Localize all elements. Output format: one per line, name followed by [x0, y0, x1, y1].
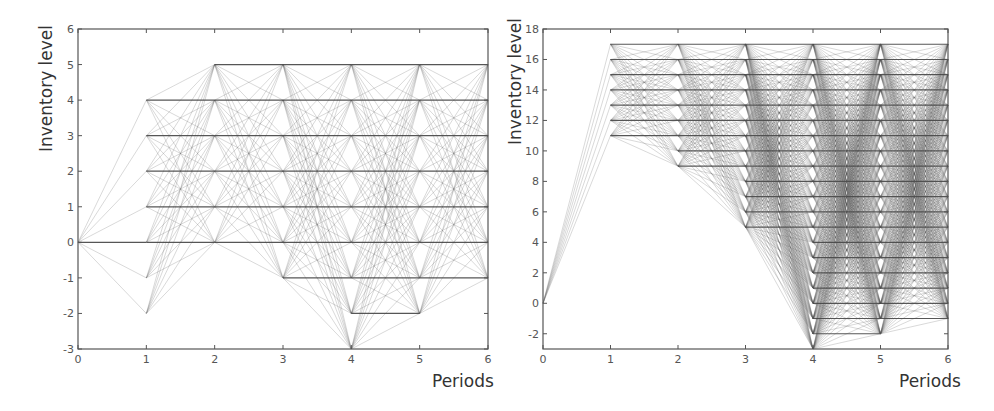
y-tick-label: -2 [528, 328, 539, 341]
y-tick-label: 16 [525, 53, 539, 66]
y-tick-label: -3 [63, 343, 74, 356]
x-tick-label: 1 [607, 353, 614, 366]
y-tick-label: 4 [532, 236, 539, 249]
left-chart-panel: 0123456-3-2-10123456 Inventory level Per… [0, 0, 497, 411]
transition-edges [78, 65, 488, 349]
y-tick-label: 18 [525, 23, 539, 36]
transition-edges [543, 44, 948, 349]
y-tick-label: 3 [67, 130, 74, 143]
y-tick-label: 14 [525, 84, 539, 97]
y-tick-label: 6 [532, 206, 539, 219]
x-tick-label: 5 [877, 353, 884, 366]
x-tick-label: 2 [675, 353, 682, 366]
x-tick-label: 0 [75, 353, 82, 366]
right-chart-x-axis-label: Periods [899, 371, 961, 391]
y-tick-label: 0 [532, 297, 539, 310]
right-chart-plot: 0123456-2024681012141618 [497, 0, 994, 411]
left-chart-y-axis-label: Inventory level [36, 25, 56, 152]
right-chart-y-axis-label: Inventory level [505, 18, 525, 145]
x-tick-label: 6 [485, 353, 492, 366]
left-chart-plot: 0123456-3-2-10123456 [0, 0, 497, 411]
y-tick-label: 8 [532, 175, 539, 188]
y-tick-label: -1 [63, 272, 74, 285]
y-tick-label: 0 [67, 236, 74, 249]
x-tick-label: 4 [348, 353, 355, 366]
x-tick-label: 5 [416, 353, 423, 366]
x-tick-label: 0 [540, 353, 547, 366]
x-tick-label: 2 [211, 353, 218, 366]
y-tick-label: 10 [525, 145, 539, 158]
left-chart-x-axis-label: Periods [432, 371, 494, 391]
y-tick-label: 2 [532, 267, 539, 280]
y-tick-label: 1 [67, 201, 74, 214]
x-tick-label: 3 [280, 353, 287, 366]
x-tick-label: 4 [810, 353, 817, 366]
y-tick-label: 4 [67, 94, 74, 107]
x-tick-label: 1 [143, 353, 150, 366]
x-tick-label: 3 [742, 353, 749, 366]
y-tick-label: 12 [525, 114, 539, 127]
y-tick-label: 5 [67, 59, 74, 72]
right-chart-panel: 0123456-2024681012141618 Inventory level… [497, 0, 994, 411]
x-tick-label: 6 [945, 353, 952, 366]
y-tick-label: 2 [67, 165, 74, 178]
y-tick-label: 6 [67, 23, 74, 36]
y-tick-label: -2 [63, 307, 74, 320]
